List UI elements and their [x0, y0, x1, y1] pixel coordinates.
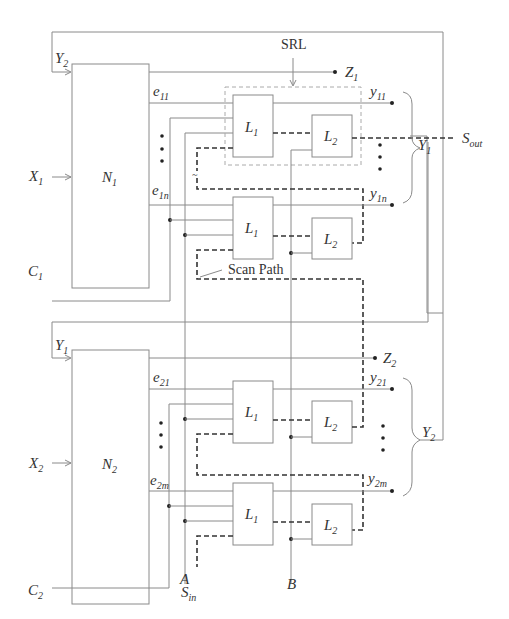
- z2-label: Z2: [383, 350, 396, 369]
- y1-in-label: Y1: [55, 337, 68, 356]
- y2-brace: [403, 378, 420, 496]
- x1-label: X1: [28, 168, 43, 187]
- y11-label: y11: [368, 83, 386, 102]
- y1-bus-label: Y1: [418, 137, 431, 156]
- ellipsis-dots: [378, 143, 382, 171]
- c1-label: C1: [28, 263, 43, 282]
- z1-terminal: [333, 70, 337, 74]
- x2-label: X2: [28, 455, 43, 474]
- sout-label: Sout: [462, 130, 483, 149]
- ellipsis-dots: [159, 421, 163, 449]
- z1-label: Z1: [345, 64, 358, 83]
- y21-label: y21: [368, 369, 387, 388]
- break-mark: ~: [192, 169, 198, 180]
- y2m-terminal: [390, 489, 394, 493]
- e21-label: e21: [153, 369, 170, 388]
- scan-path-pointer: [200, 270, 222, 277]
- z2-terminal: [373, 356, 377, 360]
- lssd-diagram: N1 X1 Y2 C1 Z1 e11 e1n SRL L1 L2 y11 Sou…: [0, 0, 509, 619]
- y21-terminal: [390, 387, 394, 391]
- ellipsis-dots: [160, 134, 164, 163]
- y2m-label: y2m: [366, 470, 387, 489]
- c2-label: C2: [28, 582, 43, 601]
- network-n2-box: [72, 350, 149, 604]
- scan-path-label: Scan Path: [228, 262, 284, 277]
- clock-a-label: A: [179, 571, 190, 587]
- e1n-label: e1n: [152, 182, 169, 201]
- scan-in-line: [197, 536, 233, 567]
- ellipsis-dots: [381, 424, 385, 452]
- e11-label: e11: [153, 83, 169, 102]
- e2m-label: e2m: [150, 472, 169, 491]
- scan-segment: [197, 148, 233, 171]
- y1n-label: y1n: [368, 185, 387, 204]
- scan-segment: [197, 434, 233, 457]
- scan-segment: [352, 420, 363, 427]
- clock-b-label: B: [287, 576, 296, 592]
- y1n-terminal: [390, 203, 394, 207]
- srl-label: SRL: [281, 37, 307, 52]
- y11-terminal: [390, 101, 394, 105]
- y2-in-label: Y2: [55, 50, 68, 69]
